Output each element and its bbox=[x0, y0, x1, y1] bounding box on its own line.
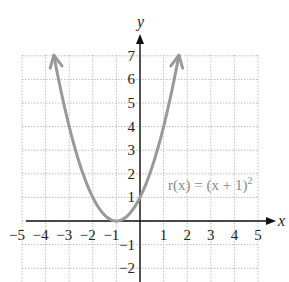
x-tick-label: −2 bbox=[80, 227, 96, 243]
y-tick-label: −2 bbox=[119, 260, 135, 276]
tick-labels: −5−4−3−2−112345−2−11234567 bbox=[9, 48, 262, 276]
x-tick-label: −3 bbox=[56, 227, 72, 243]
x-tick-label: 3 bbox=[207, 227, 215, 243]
function-label: r(x) = (x + 1)2 bbox=[168, 175, 252, 194]
x-tick-label: 5 bbox=[254, 227, 262, 243]
y-tick-label: −1 bbox=[119, 237, 135, 253]
y-tick-label: 5 bbox=[128, 95, 136, 111]
x-tick-label: 1 bbox=[160, 227, 168, 243]
y-tick-label: 4 bbox=[128, 119, 136, 135]
y-tick-label: 3 bbox=[128, 142, 136, 158]
x-axis-label: x bbox=[277, 212, 285, 229]
x-axis-arrow-icon bbox=[266, 217, 276, 225]
y-axis-arrow-icon bbox=[136, 34, 144, 44]
x-tick-label: −1 bbox=[103, 227, 119, 243]
y-tick-label: 1 bbox=[128, 189, 136, 205]
y-tick-label: 7 bbox=[128, 48, 136, 64]
y-tick-label: 2 bbox=[128, 166, 136, 182]
coordinate-graph: x y −5−4−3−2−112345−2−11234567 r(x) = (x… bbox=[0, 0, 289, 282]
y-axis-label: y bbox=[135, 13, 145, 31]
x-tick-label: 2 bbox=[183, 227, 191, 243]
y-tick-label: 6 bbox=[128, 71, 136, 87]
x-tick-label: 4 bbox=[231, 227, 239, 243]
x-tick-label: −5 bbox=[9, 227, 25, 243]
x-tick-label: −4 bbox=[33, 227, 49, 243]
